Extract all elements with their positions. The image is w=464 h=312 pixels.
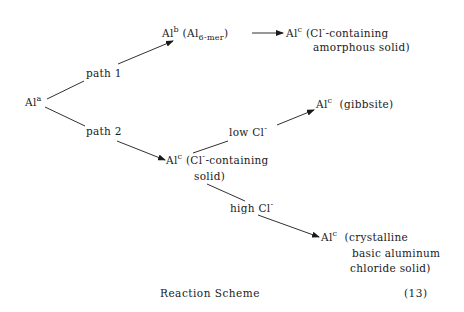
line-start-to-path2 — [45, 107, 85, 126]
species-base: Al — [166, 154, 178, 166]
species-al-b: Alb (Al6-mer) — [162, 27, 228, 39]
condition-text: high Cl — [230, 202, 270, 214]
al6-mer-subscript: 6-mer — [199, 33, 224, 42]
species-superscript: c — [298, 25, 303, 34]
crystalline-desc-line1: (crystalline — [345, 231, 408, 243]
arrow-low-to-gibbsite — [277, 110, 314, 125]
arrow-path1-to-alb — [118, 41, 173, 64]
species-al-c-amorphous: Alc (Cl--containing — [286, 27, 389, 39]
line-alc-to-low — [193, 141, 228, 153]
crystalline-desc-line3: chloride solid) — [350, 262, 431, 274]
caption-title: Reaction Scheme — [160, 287, 260, 299]
species-base: Al — [316, 98, 328, 110]
desc-line1-post: -containing — [205, 154, 268, 166]
crystalline-desc-line2: basic aluminum — [352, 247, 440, 259]
species-base: Al — [25, 96, 37, 108]
species-al-c-gibbsite: Alc (gibbsite) — [316, 98, 394, 110]
species-base: Al — [321, 231, 333, 243]
species-al-c-crystalline: Alc (crystalline — [321, 231, 408, 243]
equation-number: (13) — [404, 287, 428, 299]
path2-label: path 2 — [86, 125, 122, 137]
desc-line1-pre: (Cl — [186, 154, 202, 166]
low-chloride-label: low Cl- — [229, 126, 267, 138]
species-base: Al — [286, 27, 298, 39]
species-base: Al — [162, 27, 174, 39]
chloride-charge: - — [270, 200, 273, 209]
solid-desc-line2: solid) — [194, 170, 225, 182]
al6-mer-close: ) — [224, 27, 228, 39]
amorphous-desc-line2: amorphous solid) — [313, 41, 410, 53]
condition-text: low Cl — [229, 126, 264, 138]
species-superscript: b — [174, 25, 179, 34]
desc-line1-pre: (Cl — [306, 27, 322, 39]
species-superscript: a — [37, 94, 42, 103]
species-superscript: c — [178, 152, 183, 161]
desc-line1-post: -containing — [325, 27, 388, 39]
species-superscript: c — [328, 96, 333, 105]
species-al-a: Ala — [25, 96, 42, 108]
path1-label: path 1 — [86, 67, 122, 79]
species-al-c-solid: Alc (Cl--containing — [166, 154, 269, 166]
high-chloride-label: high Cl- — [230, 202, 273, 214]
line-alc-to-high — [207, 184, 245, 201]
arrow-high-to-crystalline — [258, 215, 319, 237]
line-start-to-path1 — [47, 81, 84, 99]
gibbsite-desc: (gibbsite) — [340, 98, 394, 110]
species-superscript: c — [333, 229, 338, 238]
arrow-path2-to-alc — [117, 141, 165, 160]
al6-mer-open: (Al — [183, 27, 199, 39]
chloride-charge: - — [264, 124, 267, 133]
